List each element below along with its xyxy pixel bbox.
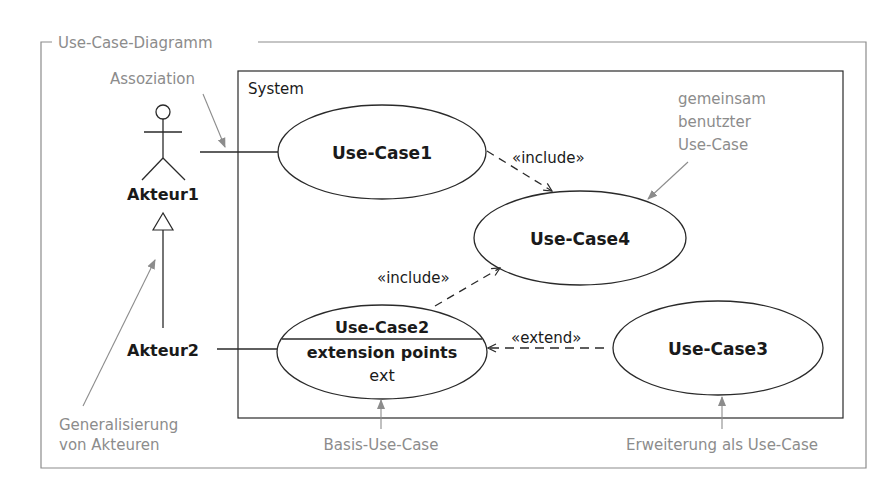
svg-text:Basis-Use-Case: Basis-Use-Case bbox=[324, 436, 439, 454]
svg-text:Use-Case: Use-Case bbox=[678, 136, 748, 154]
annotation-gemeinsam: gemeinsam benutzter Use-Case bbox=[648, 90, 766, 199]
extension-point-ext: ext bbox=[369, 366, 394, 385]
use-case-1-label: Use-Case1 bbox=[332, 143, 432, 163]
use-case-3-label: Use-Case3 bbox=[668, 339, 768, 359]
use-case-3[interactable]: Use-Case3 bbox=[613, 301, 823, 395]
use-case-diagram: Use-Case-Diagramm System Akteur1 Akteur2… bbox=[0, 0, 893, 493]
annotation-erweiterung: Erweiterung als Use-Case bbox=[626, 397, 818, 454]
generalization-arrow bbox=[153, 213, 173, 328]
triangle-arrowhead-icon bbox=[153, 213, 173, 230]
extend-relation-uc3-uc2: «extend» bbox=[488, 329, 604, 348]
actor-label-akteur2: Akteur2 bbox=[127, 341, 199, 360]
svg-text:Assoziation: Assoziation bbox=[110, 70, 195, 88]
extension-points-title: extension points bbox=[307, 343, 458, 362]
use-case-2[interactable]: Use-Case2 extension points ext bbox=[277, 305, 487, 399]
use-case-4[interactable]: Use-Case4 bbox=[474, 191, 686, 285]
svg-text:gemeinsam: gemeinsam bbox=[678, 90, 766, 108]
annotation-basis-use-case: Basis-Use-Case bbox=[324, 400, 439, 454]
frame-title: Use-Case-Diagramm bbox=[58, 34, 213, 52]
system-label: System bbox=[248, 80, 304, 98]
include-relation-uc2-uc4: «include» bbox=[377, 268, 500, 306]
annotation-assoziation: Assoziation bbox=[110, 70, 225, 147]
use-case-1[interactable]: Use-Case1 bbox=[278, 105, 486, 199]
svg-text:Erweiterung als Use-Case: Erweiterung als Use-Case bbox=[626, 436, 818, 454]
actor-akteur1[interactable] bbox=[142, 105, 185, 180]
use-case-2-label: Use-Case2 bbox=[335, 318, 429, 337]
svg-text:benutzter: benutzter bbox=[678, 113, 752, 131]
actor-head-icon bbox=[156, 105, 170, 119]
actor-label-akteur1: Akteur1 bbox=[127, 185, 199, 204]
include-label-1: «include» bbox=[512, 149, 585, 167]
svg-text:Generalisierung: Generalisierung bbox=[59, 416, 178, 434]
use-case-4-label: Use-Case4 bbox=[530, 229, 630, 249]
svg-text:von Akteuren: von Akteuren bbox=[59, 436, 159, 454]
extend-label: «extend» bbox=[511, 329, 581, 347]
include-label-2: «include» bbox=[377, 269, 450, 287]
include-relation-uc1-uc4: «include» bbox=[487, 149, 585, 191]
